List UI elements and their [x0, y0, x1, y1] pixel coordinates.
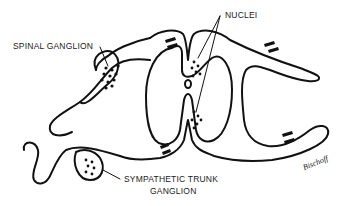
label-nuclei: NUCLEI: [225, 10, 257, 20]
nerve-trunk-lower: [24, 143, 120, 184]
sympathetic-ganglion-dots: [85, 159, 96, 176]
label-spinal-ganglion: SPINAL GANGLION: [13, 41, 93, 51]
spinal-cord-outline: [120, 31, 328, 161]
nerve-trunk-upper: [50, 59, 150, 135]
sympathetic-leader: [103, 170, 120, 179]
spinal-cord-diagram: SPINAL GANGLION NUCLEI SYMPATHETIC TRUNK…: [0, 0, 361, 206]
spinal-ganglion-body: [80, 51, 118, 103]
label-sympathetic-trunk-line2: GANGLION: [150, 186, 196, 196]
dorsal-root: [96, 38, 150, 70]
central-canal: [185, 80, 191, 88]
nuclei-leader-1: [198, 16, 220, 58]
label-sympathetic-trunk-line1: SYMPATHETIC TRUNK: [124, 174, 218, 184]
